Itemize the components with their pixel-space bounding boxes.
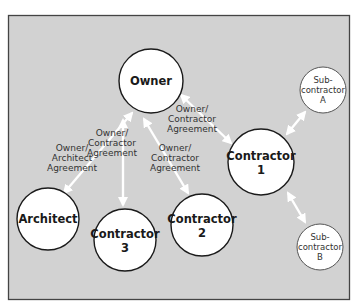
node-label: Sub- <box>313 75 332 85</box>
edge-label-line: Owner/ <box>56 143 89 153</box>
node-label: Contractor <box>90 227 160 241</box>
node-subcontractor-a: Sub- contractor A <box>300 67 346 113</box>
node-label: Architect <box>18 212 78 226</box>
edge-label-line: Contractor <box>88 138 136 148</box>
node-owner: Owner <box>119 49 183 113</box>
edge-label-line: Contractor <box>151 153 199 163</box>
edge-label-line: Agreement <box>167 124 217 134</box>
node-subcontractor-b: Sub- contractor B <box>297 224 343 270</box>
node-label: 3 <box>121 241 129 255</box>
node-label: Owner <box>130 74 172 88</box>
edge-label-line: Owner/ <box>96 128 129 138</box>
contract-relationship-diagram: Owner/ Architect Agreement Owner/ Contra… <box>0 0 358 308</box>
node-label: Contractor <box>226 149 296 163</box>
edge-label-line: Owner/ <box>159 143 192 153</box>
node-architect: Architect <box>17 188 79 250</box>
edge-label-line: Agreement <box>47 163 97 173</box>
node-label: B <box>317 252 323 262</box>
edge-label-line: Owner/ <box>176 104 209 114</box>
node-label: 1 <box>257 163 265 177</box>
node-label: 2 <box>198 226 206 240</box>
edge-label-line: Agreement <box>150 163 200 173</box>
node-label: Sub- <box>310 232 329 242</box>
node-label: contractor <box>298 242 343 252</box>
node-label: Contractor <box>167 212 237 226</box>
node-label: A <box>320 95 326 105</box>
edge-label-line: Contractor <box>168 114 216 124</box>
node-label: contractor <box>301 85 346 95</box>
edge-label-line: Agreement <box>87 148 137 158</box>
